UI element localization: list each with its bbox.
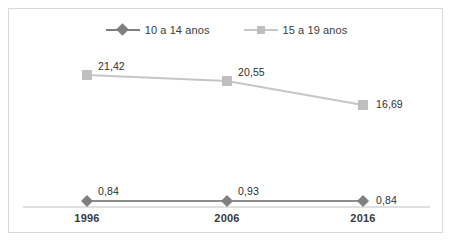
data-label-10-a-14-anos-1996: 0,84 [98,185,119,197]
data-label-10-a-14-anos-2016: 0,84 [376,194,397,206]
data-point-marker[interactable] [81,195,93,207]
data-point-marker[interactable] [221,195,233,207]
x-axis-tick-2006: 2006 [197,212,257,224]
data-label-10-a-14-anos-2006: 0,93 [238,185,259,197]
data-point-marker[interactable] [222,76,232,86]
data-point-marker[interactable] [357,195,369,207]
data-label-15-a-19-anos-2016: 16,69 [376,98,403,110]
data-label-15-a-19-anos-2006: 20,55 [238,66,265,78]
data-point-marker[interactable] [82,70,92,80]
x-axis-tick-2016: 2016 [333,212,393,224]
data-point-marker[interactable] [358,100,368,110]
data-label-15-a-19-anos-1996: 21,42 [98,60,125,72]
chart-container: 10 a 14 anos 15 a 19 anos 21,42 20,55 16… [8,8,443,233]
x-axis-tick-1996: 1996 [57,212,117,224]
